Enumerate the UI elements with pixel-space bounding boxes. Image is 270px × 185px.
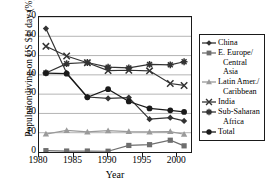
legend-label-5: Total [218, 127, 262, 136]
data-point-5-1 [64, 71, 70, 77]
data-point-4-4 [125, 65, 132, 72]
x-tick-mark-1985 [73, 153, 74, 157]
legend-marker-square-icon [202, 48, 218, 57]
legend-item-2[interactable]: Latin Amer./ [202, 77, 262, 86]
data-point-5-0 [43, 70, 49, 76]
data-point-4-5 [146, 61, 153, 68]
data-point-4-3 [105, 64, 112, 71]
data-point-5-4 [126, 99, 132, 105]
data-point-1-6 [168, 138, 173, 143]
legend-item-3[interactable]: India [202, 97, 262, 106]
data-point-0-6 [167, 115, 173, 121]
legend-label-2-cont: Caribbean [202, 87, 262, 96]
data-point-5-2 [84, 94, 90, 100]
legend-label-1: E. Europe/ [218, 48, 262, 57]
data-point-5-6 [167, 107, 173, 113]
data-point-1-4 [126, 143, 131, 148]
data-point-4-2 [84, 59, 91, 66]
legend: ChinaE. Europe/Central AsiaLatin Amer./C… [199, 34, 265, 141]
legend-label-2: Latin Amer./ [218, 77, 262, 86]
data-point-5-7 [181, 109, 187, 115]
data-point-4-6 [167, 61, 174, 68]
data-point-3-0 [43, 43, 49, 49]
x-tick-mark-1995 [142, 153, 143, 157]
series-canvas [39, 17, 191, 152]
data-point-5-3 [105, 86, 111, 92]
x-tick-mark-1990 [107, 153, 108, 157]
data-point-1-5 [147, 142, 152, 147]
x-tick-mark-2000 [176, 153, 177, 157]
data-point-0-7 [181, 118, 187, 124]
data-point-1-3 [105, 149, 110, 152]
legend-item-4[interactable]: Sub-Saharan [202, 107, 262, 116]
legend-marker-circle-icon [202, 127, 218, 136]
data-point-1-7 [181, 143, 186, 148]
data-point-5-5 [147, 106, 153, 112]
legend-marker-diamond-icon [202, 38, 218, 47]
data-point-0-3 [105, 95, 111, 101]
x-tick-mark-1980 [38, 153, 39, 157]
legend-label-3: India [218, 97, 262, 106]
legend-label-4-cont: Africa [202, 117, 262, 126]
legend-item-0[interactable]: China [202, 38, 262, 47]
data-point-0-0 [43, 25, 49, 31]
chart-figure: Population living on US $1/ day (%) Year… [0, 0, 270, 185]
legend-marker-star-icon [202, 107, 218, 116]
legend-marker-triangle-icon [202, 77, 218, 86]
data-point-1-2 [85, 148, 90, 152]
data-point-1-0 [43, 148, 48, 152]
data-point-1-1 [64, 148, 69, 152]
data-point-4-7 [181, 58, 188, 65]
plot-area [38, 16, 192, 153]
legend-item-1[interactable]: E. Europe/ [202, 48, 262, 57]
legend-item-5[interactable]: Total [202, 127, 262, 136]
data-point-4-1 [63, 60, 70, 67]
legend-marker-x-icon [202, 97, 218, 106]
legend-label-0: China [218, 38, 262, 47]
legend-label-1-cont: Central Asia [202, 58, 262, 77]
legend-label-4: Sub-Saharan [218, 107, 262, 116]
